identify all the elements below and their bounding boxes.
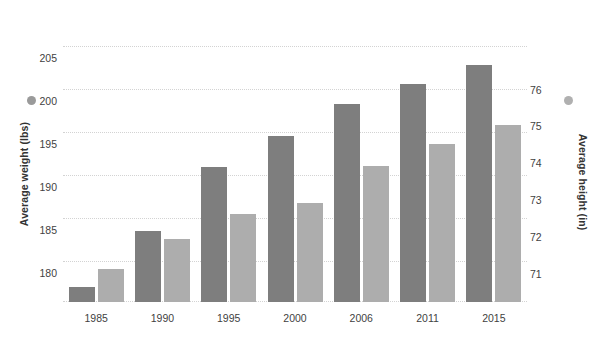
gridline — [63, 132, 527, 133]
y-axis-left-tick-label: 200 — [17, 95, 57, 107]
bar-weight — [400, 84, 426, 302]
bar-height — [429, 144, 455, 302]
bar-height — [495, 125, 521, 302]
y-axis-left-tick-label: 190 — [17, 181, 57, 193]
bar-height — [164, 239, 190, 302]
x-axis-tick-label: 2006 — [331, 312, 391, 324]
gridline — [63, 89, 527, 90]
y-axis-left-ticks: 180185190195200205 — [17, 26, 57, 302]
bar-height — [297, 203, 323, 302]
y-axis-right-title: Average height (in) — [577, 112, 589, 252]
bar-weight — [334, 104, 360, 302]
y-axis-left-tick-label: 180 — [17, 267, 57, 279]
x-axis-tick-label: 1985 — [66, 312, 126, 324]
gridline — [63, 46, 527, 47]
bar-weight — [466, 65, 492, 302]
bar-height — [98, 269, 124, 302]
x-axis-tick-label: 1995 — [199, 312, 259, 324]
gridline — [63, 261, 527, 262]
chart-container: Average weight (lbs) Average height (in)… — [0, 0, 608, 344]
gridline — [63, 218, 527, 219]
x-axis-tick-label: 2015 — [464, 312, 524, 324]
y-axis-right-tick-label: 76 — [530, 84, 570, 96]
x-axis-tick-label: 1990 — [132, 312, 192, 324]
y-axis-left-tick-label: 205 — [17, 52, 57, 64]
plot-area — [63, 26, 527, 302]
y-axis-right-tick-label: 72 — [530, 231, 570, 243]
y-axis-left-tick-label: 195 — [17, 138, 57, 150]
y-axis-right-tick-label: 75 — [530, 120, 570, 132]
x-axis-tick-label: 2000 — [265, 312, 325, 324]
y-axis-right-tick-label: 71 — [530, 268, 570, 280]
y-axis-right-tick-label: 73 — [530, 194, 570, 206]
gridline-baseline — [63, 301, 527, 302]
bar-weight — [69, 287, 95, 302]
gridline — [63, 175, 527, 176]
bar-height — [363, 166, 389, 302]
bar-height — [230, 214, 256, 302]
y-axis-right-ticks: 717273747576 — [530, 26, 570, 302]
y-axis-right-tick-label: 74 — [530, 157, 570, 169]
bar-weight — [135, 231, 161, 302]
bar-weight — [268, 136, 294, 302]
bar-weight — [201, 167, 227, 302]
y-axis-left-tick-label: 185 — [17, 224, 57, 236]
x-axis-tick-label: 2011 — [398, 312, 458, 324]
